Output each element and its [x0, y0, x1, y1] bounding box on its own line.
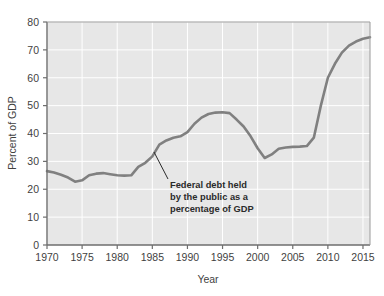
x-tick-label: 1970 — [35, 251, 59, 263]
y-tick-label: 60 — [27, 72, 39, 84]
x-tick-label: 1975 — [70, 251, 94, 263]
y-axis-title: Percent of GDP — [6, 96, 18, 170]
y-tick-label: 40 — [27, 127, 39, 139]
callout-line-1: Federal debt held — [170, 180, 247, 190]
y-tick-label: 70 — [27, 44, 39, 56]
y-axis-ticks: 01020304050607080 — [27, 16, 47, 251]
x-tick-label: 2000 — [246, 251, 270, 263]
x-tick-label: 2010 — [316, 251, 340, 263]
x-tick-label: 2015 — [351, 251, 375, 263]
y-tick-label: 50 — [27, 99, 39, 111]
x-tick-label: 1995 — [211, 251, 235, 263]
x-tick-label: 1980 — [106, 251, 130, 263]
y-tick-label: 30 — [27, 155, 39, 167]
y-tick-label: 10 — [27, 211, 39, 223]
debt-to-gdp-line-chart: 01020304050607080 1970197519801985199019… — [0, 0, 384, 296]
x-axis-title: Year — [197, 273, 219, 285]
y-tick-label: 20 — [27, 183, 39, 195]
y-tick-label: 80 — [27, 16, 39, 28]
callout-line-2: by the public as a — [170, 192, 249, 202]
x-tick-label: 1985 — [141, 251, 165, 263]
callout-line-3: percentage of GDP — [170, 204, 254, 214]
y-tick-label: 0 — [33, 239, 39, 251]
x-tick-label: 1990 — [176, 251, 200, 263]
x-axis-ticks: 1970197519801985199019952000200520102015 — [35, 245, 374, 263]
chart-figure: 01020304050607080 1970197519801985199019… — [0, 0, 384, 296]
x-tick-label: 2005 — [281, 251, 305, 263]
